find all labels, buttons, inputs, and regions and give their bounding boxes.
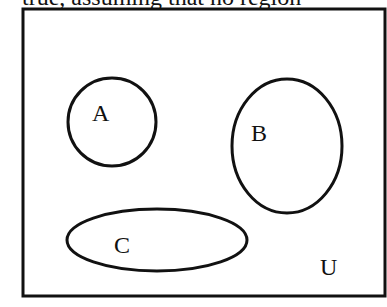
set-a-label: A xyxy=(92,100,110,126)
set-c-ellipse xyxy=(67,209,247,271)
universe-label: U xyxy=(320,254,337,280)
venn-diagram: A B C U xyxy=(0,0,387,307)
set-a-circle xyxy=(68,78,156,166)
set-b-label: B xyxy=(251,120,267,146)
set-b-ellipse xyxy=(232,79,342,213)
set-c-label: C xyxy=(114,232,130,258)
